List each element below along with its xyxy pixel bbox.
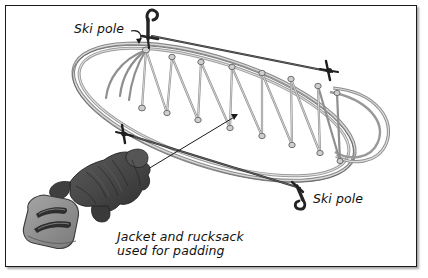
- label-padding-line1: Jacket and rucksack: [117, 230, 244, 244]
- illustration-figure: Ski pole Ski pole Jacket and rucksack us…: [0, 0, 428, 278]
- label-padding-line2: used for padding: [117, 244, 244, 258]
- label-padding: Jacket and rucksack used for padding: [117, 230, 244, 258]
- rucksack: [23, 195, 78, 249]
- label-ski-pole-bottom: Ski pole: [313, 191, 363, 206]
- label-ski-pole-top: Ski pole: [74, 21, 124, 36]
